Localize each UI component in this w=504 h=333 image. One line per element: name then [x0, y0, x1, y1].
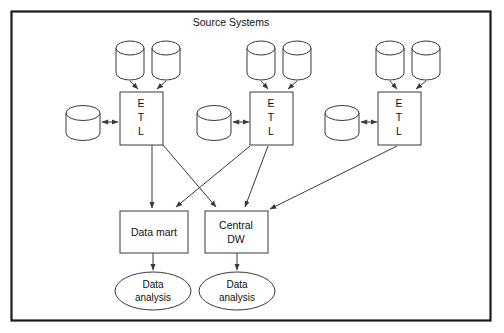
central-dw-label-line1: Central: [219, 219, 253, 231]
source-database-cylinder: [376, 41, 404, 80]
source-database-cylinder: [66, 106, 100, 141]
etl-label-letter: L: [138, 125, 144, 137]
etl-label-letter: T: [138, 111, 145, 123]
data-analysis-label-line1: Data: [142, 279, 164, 290]
source-database-cylinder: [247, 41, 275, 80]
etl-label-letter: T: [396, 111, 403, 123]
data-analysis-label-line2: analysis: [135, 292, 171, 303]
source-database-cylinder: [197, 106, 231, 141]
etl-label-letter: E: [395, 97, 402, 109]
source-database-cylinder: [283, 41, 311, 80]
etl-label-letter: E: [137, 97, 144, 109]
page-title: Source Systems: [193, 16, 269, 28]
central-dw-label-line2: DW: [227, 233, 245, 245]
diagram-canvas: Source Systems E T L: [0, 0, 504, 333]
etl-label-letter: E: [267, 97, 274, 109]
etl-label-letter: L: [396, 125, 402, 137]
etl-label-letter: T: [268, 111, 275, 123]
source-database-cylinder: [325, 106, 359, 141]
source-database-cylinder: [116, 41, 144, 80]
data-mart-label: Data mart: [131, 226, 177, 238]
data-analysis-label-line1: Data: [226, 279, 248, 290]
architecture-diagram: Source Systems E T L: [0, 0, 504, 333]
etl-label-letter: L: [268, 125, 274, 137]
source-database-cylinder: [412, 41, 440, 80]
source-database-cylinder: [152, 41, 180, 80]
data-analysis-label-line2: analysis: [219, 292, 255, 303]
